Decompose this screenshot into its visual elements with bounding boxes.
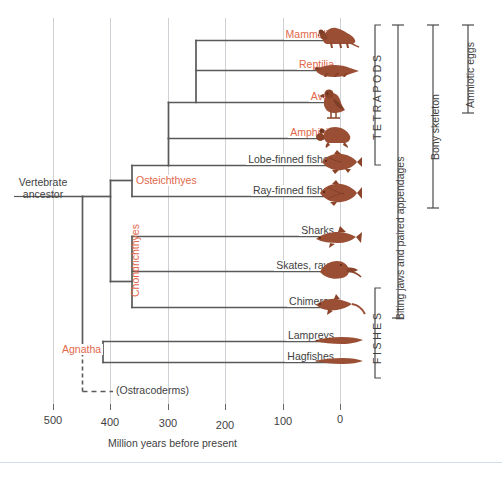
bracket-label-bony-skeleton: Bony skeleton (429, 94, 441, 160)
mouse-silhouette (312, 24, 360, 50)
bird-silhouette (318, 88, 352, 120)
tree-canvas (0, 0, 502, 483)
lamprey-silhouette (312, 336, 364, 346)
axis-tick-100: 100 (263, 415, 303, 427)
clade-label-chondrichthyes: Chondrichthyes (129, 224, 141, 297)
clade-label-osteichthyes: Osteichthyes (134, 175, 199, 186)
bracket-label-biting-jaws: Biting jaws and paired appendages (394, 157, 406, 320)
frog-silhouette (314, 124, 356, 148)
lizard-silhouette (312, 60, 362, 78)
axis-tick-200: 200 (205, 419, 245, 431)
axis-tick-400: 400 (90, 416, 130, 428)
axis-tick-0: 0 (320, 413, 360, 425)
cladogram-figure: Mammalia Reptilia Aves Amphibia Lobe-fin… (0, 0, 502, 483)
bracket-label-tetrapods: TETRAPODS (371, 52, 383, 140)
clade-label-agnatha: Agnatha (60, 344, 103, 355)
bracket-label-amniotic-eggs: Amniotic eggs (464, 42, 476, 108)
chimera-silhouette (312, 292, 366, 318)
ray-silhouette (314, 258, 362, 282)
tree-branches (43, 41, 340, 363)
lobefin-silhouette (312, 150, 362, 174)
ostracoderms-label: (Ostracoderms) (116, 385, 189, 396)
shark-silhouette (312, 226, 362, 248)
rayfin-silhouette (312, 180, 362, 206)
axis-ticks (54, 404, 341, 410)
ostracoderms-branch (83, 353, 114, 392)
bracket-label-fishes: FISHES (371, 310, 383, 364)
axis-title: Million years before present (108, 437, 237, 449)
root-label-line1: Vertebrate (14, 177, 72, 188)
axis-tick-300: 300 (148, 417, 188, 429)
root-label-line2: ancestor (14, 189, 72, 200)
hagfish-silhouette (312, 357, 364, 366)
axis-tick-500: 500 (33, 414, 73, 426)
bottom-divider (0, 462, 502, 463)
